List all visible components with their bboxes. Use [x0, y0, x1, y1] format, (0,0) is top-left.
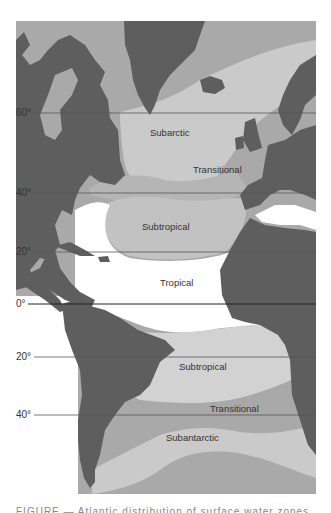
latitude-label-60n: 60° [16, 108, 31, 118]
zone-label-transitional-north: Transitional [193, 165, 242, 175]
zone-label-tropical: Tropical [160, 278, 193, 288]
latitude-label-20s: 20° [16, 352, 31, 362]
land-ireland [235, 136, 244, 150]
latitude-label-0: 0° [16, 299, 26, 309]
latitude-label-20n: 20° [16, 247, 31, 257]
zone-label-transitional-south: Transitional [210, 404, 259, 414]
zone-label-subantarctic: Subantarctic [166, 433, 219, 443]
zone-label-subtropical-south: Subtropical [179, 362, 227, 372]
zone-label-subtropical-north: Subtropical [142, 222, 190, 232]
latitude-label-40n: 40° [16, 188, 31, 198]
figure-caption-partial: FIGURE — Atlantic distribution of surfac… [16, 505, 316, 513]
zone-label-subarctic: Subarctic [150, 128, 190, 138]
land-hispaniola [98, 256, 110, 262]
latitude-label-40s: 40° [16, 410, 31, 420]
